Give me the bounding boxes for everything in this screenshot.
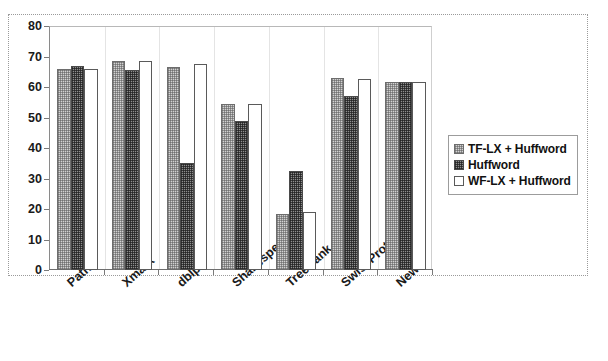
x-axis-tick — [104, 270, 105, 275]
bar — [412, 82, 426, 270]
bar — [344, 96, 358, 270]
legend-item-label: Huffword — [468, 158, 520, 172]
legend-swatch-icon — [454, 160, 464, 170]
legend-item-label: WF-LX + Huffword — [468, 174, 571, 188]
bar — [358, 79, 372, 270]
legend-swatch-icon — [454, 176, 464, 186]
x-axis-tick — [213, 270, 214, 275]
bar — [276, 214, 290, 270]
bar — [71, 66, 85, 270]
y-axis-tick — [44, 270, 49, 271]
chart-figure: 01020304050607080 PathXmarkdblpShakespea… — [0, 0, 608, 361]
bar — [221, 104, 235, 270]
x-axis-tick — [432, 270, 433, 275]
y-axis-tick — [44, 57, 49, 58]
y-axis-tick — [44, 87, 49, 88]
bar — [289, 171, 303, 270]
legend-item-tf-lx-huffword: TF-LX + Huffword — [454, 141, 571, 156]
bar — [180, 163, 194, 270]
y-axis-tick — [44, 209, 49, 210]
chart-legend: TF-LX + Huffword Huffword WF-LX + Huffwo… — [448, 135, 578, 195]
y-axis-tick — [44, 179, 49, 180]
bar — [194, 64, 208, 270]
bar — [331, 78, 345, 270]
bar — [385, 82, 399, 270]
y-axis-tick — [44, 148, 49, 149]
y-axis-tick — [44, 240, 49, 241]
y-axis-tick — [44, 118, 49, 119]
x-axis-tick — [377, 270, 378, 275]
bar — [125, 70, 139, 270]
bar — [248, 104, 262, 270]
legend-swatch-icon — [454, 144, 464, 154]
bar — [139, 61, 153, 270]
bar — [57, 69, 71, 270]
legend-item-wf-lx-huffword: WF-LX + Huffword — [454, 173, 571, 188]
bar — [112, 61, 126, 270]
bar — [235, 121, 249, 270]
x-axis-tick — [323, 270, 324, 275]
legend-item-label: TF-LX + Huffword — [468, 142, 567, 156]
x-axis-tick — [158, 270, 159, 275]
y-axis-tick — [44, 26, 49, 27]
bar — [84, 69, 98, 270]
legend-item-huffword: Huffword — [454, 157, 571, 172]
x-axis-tick — [268, 270, 269, 275]
bar — [167, 67, 181, 270]
bar — [399, 82, 413, 270]
bar — [303, 212, 317, 270]
